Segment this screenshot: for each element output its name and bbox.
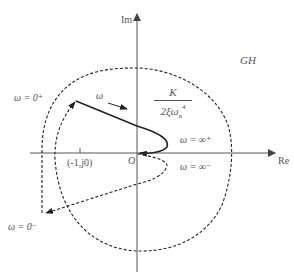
omega-inf-plus-label: ω = ∞⁺: [180, 135, 211, 145]
nyquist-curve-negative: [46, 154, 167, 213]
omega-direction-arrow: [108, 103, 127, 109]
diagram-canvas: [0, 0, 294, 279]
omega-zero-plus-label: ω = 0⁺: [14, 93, 43, 103]
real-axis-label: Re: [278, 156, 289, 166]
fraction-bar: [154, 100, 192, 101]
omega-direction-label: ω: [96, 91, 103, 101]
gain-denominator: 2ξωn4: [154, 103, 192, 120]
omega-inf-minus-label: ω = ∞⁻: [180, 162, 211, 172]
imag-axis-label: Im: [121, 15, 132, 25]
nyquist-diagram: Im Re O (-1,j0) GH ω = 0⁺ ω = 0⁻ ω = ∞⁺ …: [0, 0, 294, 279]
critical-point-label: (-1,j0): [67, 158, 92, 168]
gain-denominator-sup: 4: [182, 103, 186, 111]
omega-zero-minus-label: ω = 0⁻: [8, 222, 37, 232]
gh-plane-label: GH: [240, 55, 256, 66]
gain-numerator: K: [154, 86, 192, 99]
gain-denominator-base: 2ξω: [161, 105, 179, 117]
origin-label: O: [128, 156, 135, 166]
gain-fraction: K 2ξωn4: [154, 86, 192, 120]
gain-denominator-sub: n: [178, 112, 182, 120]
